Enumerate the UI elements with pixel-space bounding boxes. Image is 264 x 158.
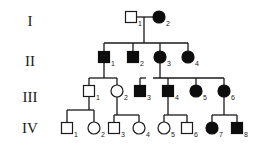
individual-number: 6 bbox=[194, 131, 198, 138]
affected-female-circle-icon bbox=[153, 11, 165, 23]
unaffected-male-square-icon bbox=[62, 123, 73, 134]
individual-iv-8: 8 bbox=[232, 123, 249, 139]
individual-i-1: 1 bbox=[126, 12, 143, 28]
affected-male-square-icon bbox=[135, 86, 146, 97]
generation-label: II bbox=[25, 53, 35, 69]
individual-number: 8 bbox=[244, 131, 248, 138]
generation-labels: IIIIIIIV bbox=[22, 13, 38, 136]
individual-number: 2 bbox=[124, 94, 128, 101]
individual-number: 5 bbox=[203, 94, 207, 101]
unaffected-female-circle-icon bbox=[133, 122, 145, 134]
individual-number: 4 bbox=[175, 94, 179, 101]
individual-iii-1: 1 bbox=[84, 86, 101, 102]
affected-female-circle-icon bbox=[206, 122, 218, 134]
affected-female-circle-icon bbox=[190, 85, 202, 97]
relationship-lines bbox=[67, 17, 237, 122]
individual-iv-1: 1 bbox=[62, 123, 79, 139]
affected-female-circle-icon bbox=[218, 85, 230, 97]
individual-number: 1 bbox=[138, 20, 142, 27]
individual-ii-2: 2 bbox=[128, 52, 145, 68]
individual-ii-1: 1 bbox=[99, 52, 116, 68]
unaffected-female-circle-icon bbox=[158, 122, 170, 134]
individual-number: 1 bbox=[96, 94, 100, 101]
individual-iv-7: 7 bbox=[206, 122, 223, 138]
individual-number: 2 bbox=[166, 20, 170, 27]
individual-iv-2: 2 bbox=[88, 122, 105, 138]
generation-label: I bbox=[28, 13, 33, 29]
unaffected-male-square-icon bbox=[126, 12, 137, 23]
individual-iv-5: 5 bbox=[158, 122, 175, 138]
individual-number: 4 bbox=[195, 60, 199, 67]
individual-number: 3 bbox=[147, 94, 151, 101]
individual-iii-3: 3 bbox=[135, 86, 152, 102]
individual-number: 6 bbox=[231, 94, 235, 101]
generation-label: IV bbox=[22, 120, 38, 136]
pedigree-chart: IIIIIIIV 12123412345612345678 bbox=[0, 0, 264, 158]
individual-number: 5 bbox=[171, 131, 175, 138]
individual-number: 3 bbox=[167, 60, 171, 67]
affected-female-circle-icon bbox=[182, 51, 194, 63]
individual-number: 1 bbox=[74, 131, 78, 138]
individual-iv-4: 4 bbox=[133, 122, 150, 138]
individual-number: 1 bbox=[111, 60, 115, 67]
individual-number: 4 bbox=[146, 131, 150, 138]
affected-female-circle-icon bbox=[154, 51, 166, 63]
generation-label: III bbox=[23, 89, 38, 105]
individual-i-2: 2 bbox=[153, 11, 170, 27]
affected-male-square-icon bbox=[232, 123, 243, 134]
individual-number: 3 bbox=[121, 131, 125, 138]
individual-iii-4: 4 bbox=[163, 86, 180, 102]
individual-iii-5: 5 bbox=[190, 85, 207, 101]
individual-ii-3: 3 bbox=[154, 51, 171, 67]
individual-number: 2 bbox=[140, 60, 144, 67]
individual-iv-6: 6 bbox=[182, 123, 199, 139]
unaffected-male-square-icon bbox=[182, 123, 193, 134]
affected-male-square-icon bbox=[163, 86, 174, 97]
individual-ii-4: 4 bbox=[182, 51, 199, 67]
individual-number: 7 bbox=[219, 131, 223, 138]
individual-iii-6: 6 bbox=[218, 85, 235, 101]
unaffected-male-square-icon bbox=[109, 123, 120, 134]
individual-iv-3: 3 bbox=[109, 123, 126, 139]
unaffected-female-circle-icon bbox=[111, 85, 123, 97]
affected-male-square-icon bbox=[128, 52, 139, 63]
individuals: 12123412345612345678 bbox=[62, 11, 249, 138]
unaffected-male-square-icon bbox=[84, 86, 95, 97]
individual-number: 2 bbox=[101, 131, 105, 138]
affected-male-square-icon bbox=[99, 52, 110, 63]
unaffected-female-circle-icon bbox=[88, 122, 100, 134]
individual-iii-2: 2 bbox=[111, 85, 128, 101]
